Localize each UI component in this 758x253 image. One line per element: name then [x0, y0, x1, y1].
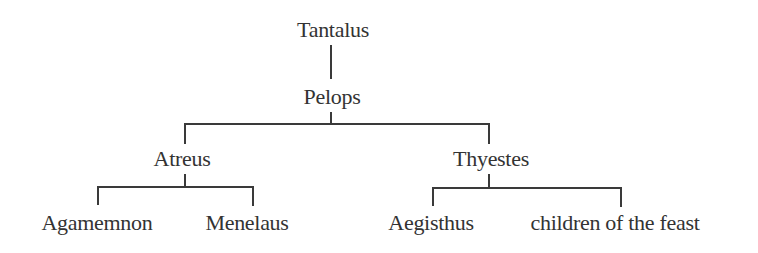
edge-thyestes-children-bar [432, 187, 622, 189]
edge-atreus-children-bar [97, 186, 254, 188]
edge-tantalus-pelops [330, 45, 332, 79]
node-atreus: Atreus [154, 147, 211, 171]
node-tantalus: Tantalus [297, 18, 369, 42]
edge-to-atreus [184, 123, 186, 144]
node-pelops: Pelops [304, 85, 361, 109]
edge-to-thyestes [488, 123, 490, 144]
node-thyestes: Thyestes [453, 147, 529, 171]
node-children-of-the-feast: children of the feast [530, 211, 699, 235]
node-menelaus: Menelaus [205, 211, 288, 235]
edge-thyestes-stem [488, 174, 490, 188]
edge-to-children-of-the-feast [620, 187, 622, 207]
edge-to-menelaus [252, 186, 254, 206]
edge-to-agamemnon [97, 186, 99, 205]
node-aegisthus: Aegisthus [388, 211, 473, 235]
edge-to-aegisthus [432, 187, 434, 206]
node-agamemnon: Agamemnon [42, 211, 153, 235]
edge-pelops-children-bar [184, 123, 490, 125]
